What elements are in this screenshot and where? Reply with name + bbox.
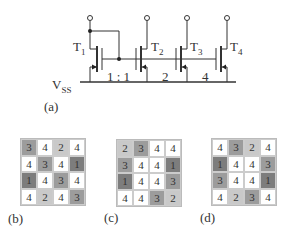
grid-cell: 1	[165, 157, 181, 174]
transistor-label-t4: T4	[230, 40, 242, 53]
grid-cell: 2	[228, 189, 244, 206]
grid-cell: 3	[260, 156, 276, 173]
grid-cell: 3	[21, 139, 37, 156]
panel-label-c: (c)	[104, 211, 118, 224]
grid-cell: 4	[117, 190, 133, 207]
grid-cell: 3	[117, 157, 133, 174]
transistor-label-t1: T1	[73, 40, 85, 53]
grid-cell: 4	[165, 140, 181, 157]
grid-cell: 3	[244, 189, 260, 206]
t4-name: T	[230, 39, 238, 54]
grid-cell: 4	[149, 140, 165, 157]
grid-cell: 2	[53, 139, 69, 156]
grid-cell: 3	[149, 190, 165, 207]
grid-cell: 4	[69, 139, 85, 156]
ratio-4: 4	[202, 70, 209, 83]
grid-cell: 4	[21, 156, 37, 173]
grid-cell: 4	[149, 173, 165, 190]
grid-cell: 1	[21, 172, 37, 189]
ratio-1-1: 1 : 1	[107, 70, 130, 83]
grid-cell: 3	[228, 139, 244, 156]
grid-cell: 3	[133, 140, 149, 157]
grid-cell: 4	[244, 156, 260, 173]
grid-cell: 4	[260, 189, 276, 206]
grid-cell: 1	[212, 156, 228, 173]
panel-label-d: (d)	[200, 211, 215, 224]
grid-cell: 1	[69, 156, 85, 173]
grid-cell: 4	[149, 157, 165, 174]
grid-cell: 4	[260, 139, 276, 156]
layout-grid-b: 3424434114344243	[20, 138, 86, 206]
grid-cell: 4	[133, 157, 149, 174]
t1-sub: 1	[81, 47, 86, 57]
ratio-2: 2	[162, 70, 169, 83]
grid-cell: 2	[37, 189, 53, 206]
panel-label-b: (b)	[8, 212, 23, 225]
t2-name: T	[151, 39, 159, 54]
grid-cell: 1	[260, 172, 276, 189]
grid-cell: 4	[53, 156, 69, 173]
grid-cell: 4	[244, 172, 260, 189]
t3-name: T	[190, 39, 198, 54]
t2-sub: 2	[159, 47, 164, 57]
grid-cell: 4	[228, 156, 244, 173]
grid-cell: 3	[212, 172, 228, 189]
grid-cell: 1	[117, 173, 133, 190]
vss-label: VSS	[52, 78, 71, 91]
grid-cell: 4	[21, 189, 37, 206]
grid-cell: 2	[244, 139, 260, 156]
grid-cell: 3	[165, 173, 181, 190]
grid-cell: 4	[37, 139, 53, 156]
grid-cell: 3	[37, 156, 53, 173]
panel-label-a: (a)	[44, 100, 58, 113]
t4-sub: 4	[238, 47, 243, 57]
transistor-label-t2: T2	[151, 40, 163, 53]
grid-cell: 4	[133, 173, 149, 190]
layout-grid-c: 2344344114434432	[116, 139, 182, 207]
grid-cell: 4	[53, 189, 69, 206]
grid-cell: 3	[53, 172, 69, 189]
vss-sub: SS	[61, 85, 71, 95]
t1-name: T	[73, 39, 81, 54]
grid-cell: 4	[228, 172, 244, 189]
grid-cell: 4	[212, 139, 228, 156]
figure: T1 T2 T3 T4 1 : 1 2 4 VSS (a) 3424434114…	[0, 0, 295, 235]
grid-cell: 2	[165, 190, 181, 207]
vss-main: V	[52, 77, 61, 92]
t3-sub: 3	[198, 47, 203, 57]
grid-cell: 2	[117, 140, 133, 157]
grid-cell: 4	[37, 172, 53, 189]
grid-cell: 4	[69, 172, 85, 189]
layout-grid-d: 4324144334414234	[211, 138, 277, 206]
grid-cell: 3	[69, 189, 85, 206]
grid-cell: 4	[133, 190, 149, 207]
transistor-label-t3: T3	[190, 40, 202, 53]
grid-cell: 4	[212, 189, 228, 206]
